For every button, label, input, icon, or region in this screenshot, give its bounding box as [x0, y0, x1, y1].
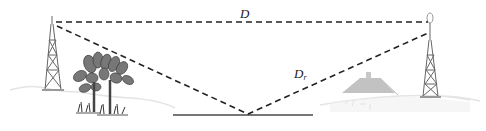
reflected-path-label-text: D: [294, 66, 303, 81]
reflected-path-label-subscript: r: [303, 73, 306, 82]
right-tower-icon: [420, 13, 441, 97]
direct-path-label: D: [240, 7, 249, 20]
trees-icon: [71, 52, 135, 115]
reflected-path-label: Dr: [294, 67, 307, 82]
direct-path-label-text: D: [240, 6, 249, 21]
terrain-shade: [330, 97, 470, 112]
